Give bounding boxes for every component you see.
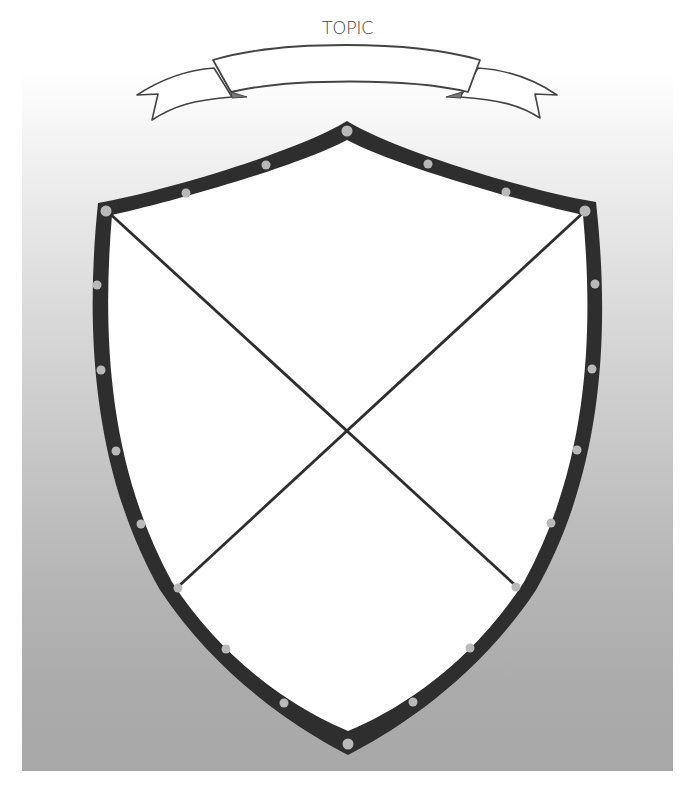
ribbon-banner xyxy=(137,45,557,120)
rivet-icon xyxy=(409,698,418,707)
rivet-icon xyxy=(512,583,521,592)
rivet-icon xyxy=(112,447,121,456)
shield-face xyxy=(108,140,587,731)
shield xyxy=(93,121,603,755)
rivet-icon xyxy=(93,281,102,290)
ribbon-main-band xyxy=(213,45,480,92)
rivet-icon xyxy=(588,365,597,374)
rivet-icon xyxy=(174,584,183,593)
ribbon-right-fold xyxy=(446,92,462,98)
rivet-icon xyxy=(222,645,231,654)
rivet-icon xyxy=(580,206,591,217)
rivet-icon xyxy=(591,280,600,289)
rivet-icon xyxy=(280,699,289,708)
rivet-icon xyxy=(502,188,511,197)
ribbon-left-fold xyxy=(231,92,247,98)
rivet-icon xyxy=(573,446,582,455)
rivet-icon xyxy=(137,520,146,529)
shield-diagram xyxy=(0,0,695,791)
rivet-icon xyxy=(101,206,112,217)
rivet-icon xyxy=(466,644,475,653)
rivet-icon xyxy=(97,366,106,375)
rivet-icon xyxy=(182,189,191,198)
rivet-icon xyxy=(343,739,354,750)
rivet-icon xyxy=(424,160,433,169)
rivet-icon xyxy=(342,126,353,137)
rivet-icon xyxy=(262,161,271,170)
rivet-icon xyxy=(547,519,556,528)
ribbon-left-tail xyxy=(137,68,232,120)
